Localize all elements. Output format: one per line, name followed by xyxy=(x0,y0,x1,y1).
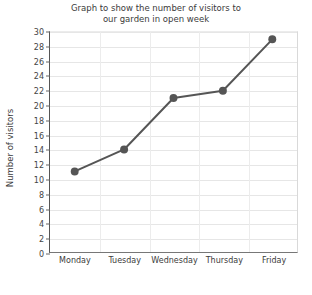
chart-figure: Graph to show the number of visitors to … xyxy=(0,0,312,295)
x-axis-tick-label: Tuesday xyxy=(108,256,141,265)
y-axis-tick: 12 xyxy=(34,161,50,170)
y-axis-tick-label: 24 xyxy=(34,72,44,81)
y-axis-tick-label: 0 xyxy=(39,250,44,259)
x-axis-tick-label: Wednesday xyxy=(151,256,197,265)
y-axis-tick: 4 xyxy=(39,220,50,229)
y-axis-tick-label: 8 xyxy=(39,190,44,199)
x-axis-tick-label: Monday xyxy=(59,256,91,265)
y-axis-tick-mark xyxy=(46,209,50,210)
y-axis-tick: 16 xyxy=(34,131,50,140)
y-axis-tick: 0 xyxy=(39,250,50,259)
y-axis-tick-label: 10 xyxy=(34,176,44,185)
y-axis-tick-mark xyxy=(46,179,50,180)
x-axis-tick-label: Friday xyxy=(262,256,286,265)
y-axis-tick-mark xyxy=(46,31,50,32)
y-axis-tick-mark xyxy=(46,239,50,240)
y-axis-tick-mark xyxy=(46,91,50,92)
data-point-marker xyxy=(170,94,178,102)
y-axis-tick-mark xyxy=(46,165,50,166)
y-axis-tick: 14 xyxy=(34,146,50,155)
plot-area: 024681012141618202224262830MondayTuesday… xyxy=(49,31,298,253)
y-axis-tick-label: 6 xyxy=(39,205,44,214)
y-axis-tick-mark xyxy=(46,46,50,47)
y-axis-tick-label: 18 xyxy=(34,116,44,125)
y-axis-tick-mark xyxy=(46,194,50,195)
y-axis-tick-mark xyxy=(46,253,50,254)
y-axis-tick: 22 xyxy=(34,87,50,96)
y-axis-tick-mark xyxy=(46,150,50,151)
y-axis-tick-mark xyxy=(46,224,50,225)
y-axis-tick: 8 xyxy=(39,190,50,199)
y-axis-tick: 6 xyxy=(39,205,50,214)
chart-title: Graph to show the number of visitors to … xyxy=(0,3,312,25)
data-point-marker xyxy=(219,87,227,95)
y-axis-tick-label: 30 xyxy=(34,28,44,37)
series-line xyxy=(75,39,273,171)
y-axis-tick-label: 12 xyxy=(34,161,44,170)
y-axis-tick: 28 xyxy=(34,42,50,51)
y-axis-tick-label: 2 xyxy=(39,235,44,244)
y-axis-tick: 18 xyxy=(34,116,50,125)
y-axis-tick-mark xyxy=(46,76,50,77)
y-axis-tick-mark xyxy=(46,135,50,136)
y-axis-tick-label: 14 xyxy=(34,146,44,155)
data-point-marker xyxy=(71,167,79,175)
y-axis-tick: 2 xyxy=(39,235,50,244)
y-axis-label-text: Number of visitors xyxy=(5,108,15,186)
y-axis-tick-label: 4 xyxy=(39,220,44,229)
y-axis-label: Number of visitors xyxy=(2,0,18,295)
y-axis-tick: 24 xyxy=(34,72,50,81)
y-axis-tick-mark xyxy=(46,61,50,62)
y-axis-tick: 30 xyxy=(34,28,50,37)
y-axis-tick: 26 xyxy=(34,57,50,66)
data-series-layer xyxy=(50,32,297,252)
y-axis-tick-mark xyxy=(46,105,50,106)
y-axis-tick-label: 16 xyxy=(34,131,44,140)
data-point-marker xyxy=(268,35,276,43)
y-axis-tick-mark xyxy=(46,120,50,121)
y-axis-tick: 10 xyxy=(34,176,50,185)
y-axis-tick-label: 22 xyxy=(34,87,44,96)
y-axis-tick: 20 xyxy=(34,102,50,111)
x-axis-tick-label: Thursday xyxy=(206,256,243,265)
y-axis-tick-label: 28 xyxy=(34,42,44,51)
y-axis-tick-label: 26 xyxy=(34,57,44,66)
data-point-marker xyxy=(120,145,128,153)
y-axis-tick-label: 20 xyxy=(34,102,44,111)
